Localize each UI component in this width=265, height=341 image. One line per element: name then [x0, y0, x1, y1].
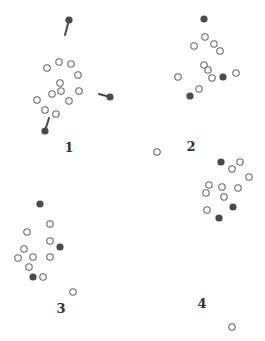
open-point: [246, 174, 252, 180]
panel-3: [15, 200, 76, 295]
filled-point: [41, 127, 48, 134]
open-point: [42, 107, 48, 113]
filled-point: [215, 214, 222, 221]
open-point: [66, 98, 72, 104]
open-point: [75, 72, 81, 78]
filled-point: [29, 273, 36, 280]
panel-label: 2: [186, 139, 195, 154]
open-point: [57, 80, 63, 86]
open-point: [76, 88, 82, 94]
filled-point: [56, 243, 63, 250]
filled-point: [186, 92, 193, 99]
open-point: [47, 238, 53, 244]
open-point: [196, 86, 202, 92]
open-point: [68, 61, 74, 67]
open-point: [175, 74, 181, 80]
filled-point: [65, 16, 72, 23]
open-point: [217, 48, 223, 54]
open-point: [209, 75, 215, 81]
panel-label: 1: [64, 140, 73, 155]
open-point: [58, 88, 64, 94]
open-point: [44, 65, 50, 71]
open-point: [70, 289, 76, 295]
panel-label: 4: [197, 296, 206, 311]
open-point: [56, 59, 62, 65]
open-point: [47, 221, 53, 227]
panel-4: [203, 158, 252, 330]
open-point: [206, 182, 212, 188]
labels-layer: 1234: [56, 139, 206, 316]
panel-label: 3: [56, 301, 65, 316]
open-point: [235, 185, 241, 191]
open-point: [219, 184, 225, 190]
open-point: [229, 166, 235, 172]
stray-open-point: [154, 149, 160, 155]
filled-point: [219, 73, 226, 80]
open-point: [30, 254, 36, 260]
open-point: [21, 246, 27, 252]
open-point: [47, 254, 53, 260]
open-point: [49, 91, 55, 97]
points-layer: [15, 15, 252, 330]
open-point: [191, 43, 197, 49]
open-point: [237, 159, 243, 165]
open-point: [204, 207, 210, 213]
scatter-diagram: 1234: [0, 0, 265, 341]
open-point: [229, 324, 235, 330]
filled-point: [106, 93, 113, 100]
open-point: [15, 255, 21, 261]
open-point: [53, 111, 59, 117]
filled-point: [36, 200, 43, 207]
open-point: [202, 34, 208, 40]
panel-1: [34, 16, 114, 134]
open-point: [233, 70, 239, 76]
filled-point: [200, 15, 207, 22]
open-point: [221, 194, 227, 200]
open-point: [34, 97, 40, 103]
filled-point: [229, 203, 236, 210]
open-point: [24, 229, 30, 235]
open-point: [40, 274, 46, 280]
open-point: [211, 41, 217, 47]
filled-point: [217, 158, 224, 165]
open-point: [26, 264, 32, 270]
panel-2: [175, 15, 239, 99]
open-point: [203, 190, 209, 196]
open-point: [205, 67, 211, 73]
